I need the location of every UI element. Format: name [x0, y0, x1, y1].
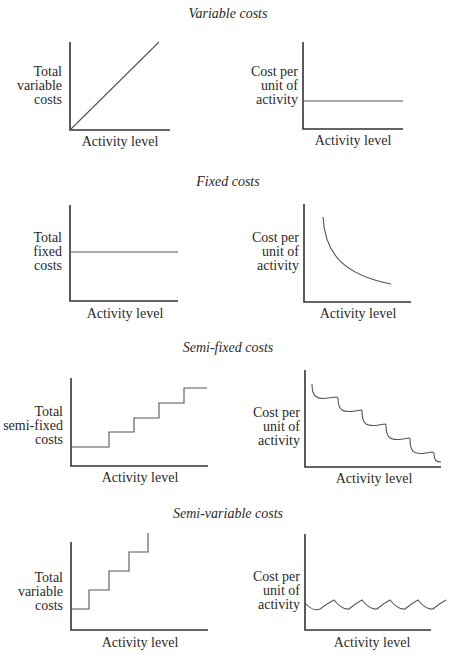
axes-total-semi-fixed: [71, 378, 208, 466]
steps-total-semi-variable: [71, 533, 148, 609]
axes-unit-semi-variable: [305, 534, 431, 630]
axes-unit-variable: [303, 42, 403, 129]
axes-unit-semi-fixed: [305, 370, 441, 467]
steps-total-semi-fixed: [71, 388, 207, 447]
axes-total-variable: [70, 42, 170, 130]
cost-behaviour-diagrams: [0, 0, 456, 664]
scallop-unit-semi-fixed: [312, 384, 441, 462]
wave-unit-semi-variable: [305, 600, 446, 610]
axes-total-fixed: [70, 205, 178, 301]
axes-total-semi-variable: [71, 542, 208, 630]
line-total-variable: [70, 42, 159, 130]
axes-unit-fixed: [304, 204, 411, 302]
curve-unit-fixed: [323, 217, 391, 284]
